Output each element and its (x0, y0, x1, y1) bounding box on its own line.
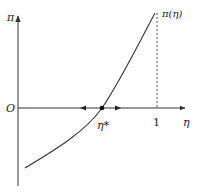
curve-pi-eta (25, 13, 155, 168)
origin-label: O (6, 103, 15, 114)
x-axis-label: η (183, 117, 190, 128)
diagram-canvas (0, 0, 200, 194)
right-arrow-icon (115, 106, 121, 111)
fixed-point-marker (100, 106, 105, 111)
tick-one-label: 1 (153, 117, 160, 128)
curve-label: π(η) (162, 9, 182, 19)
left-arrow-icon (80, 106, 86, 111)
y-axis-label: π (7, 12, 14, 23)
fixed-point-label: η* (97, 120, 109, 131)
